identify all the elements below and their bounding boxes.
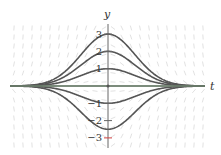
slope-mark (140, 143, 141, 148)
slope-mark (157, 53, 158, 58)
slope-mark (23, 44, 24, 49)
slope-mark (121, 35, 123, 39)
slope-mark (23, 53, 24, 58)
slope-mark (203, 107, 204, 112)
slope-mark (32, 125, 33, 130)
slope-mark (31, 98, 33, 103)
slope-mark (58, 98, 60, 102)
slope-mark (111, 144, 115, 147)
slope-mark (75, 98, 78, 102)
slope-mark (41, 53, 42, 58)
slope-mark (12, 80, 16, 83)
slope-mark (167, 125, 168, 130)
slope-mark (14, 62, 15, 67)
slope-mark (185, 125, 186, 130)
slope-mark (76, 62, 78, 66)
slope-mark (185, 35, 186, 40)
slope-mark (175, 62, 176, 67)
slope-mark (32, 134, 33, 139)
slope-mark (67, 125, 68, 130)
slope-mark (30, 80, 34, 83)
slope-mark (68, 143, 69, 148)
y-tick-label: 1 (96, 63, 102, 74)
slope-mark (68, 26, 69, 31)
slope-mark (23, 125, 24, 130)
slope-mark (77, 143, 78, 148)
slope-mark (30, 89, 34, 93)
slope-mark (130, 134, 132, 139)
slope-mark (185, 44, 186, 49)
slope-mark (49, 62, 50, 67)
slope-mark (175, 71, 177, 76)
slope-mark (167, 53, 168, 58)
slope-mark (139, 134, 140, 139)
slope-mark (59, 125, 60, 130)
slope-mark (130, 44, 132, 49)
slope-mark (166, 107, 167, 112)
slope-mark (158, 26, 159, 31)
slope-mark (85, 53, 87, 57)
slope-mark (76, 44, 77, 49)
slope-mark (32, 35, 33, 40)
slope-mark (120, 116, 123, 120)
slope-mark (166, 62, 167, 67)
slope-mark (121, 134, 123, 138)
slope-mark (102, 135, 106, 137)
slope-mark (13, 71, 15, 76)
slope-mark (130, 143, 131, 148)
slope-mark (176, 134, 177, 139)
slope-mark (194, 125, 195, 130)
slope-mark (121, 125, 124, 129)
slope-mark (50, 53, 51, 58)
slope-mark (58, 53, 59, 58)
slope-mark (59, 134, 60, 139)
slope-mark (148, 125, 149, 130)
slope-mark (203, 44, 204, 49)
slope-mark (184, 71, 186, 76)
slope-mark (41, 125, 42, 130)
slope-mark (111, 54, 116, 56)
slope-mark (39, 89, 43, 92)
slope-mark (50, 143, 51, 148)
slope-mark (120, 72, 125, 74)
slope-mark (158, 134, 159, 139)
slope-mark (102, 45, 107, 47)
slope-mark (158, 125, 159, 130)
slope-mark (185, 116, 186, 121)
t-axis-label: t (210, 80, 215, 93)
slope-mark (102, 36, 106, 38)
slope-mark (85, 35, 87, 40)
slope-mark (76, 134, 77, 139)
slope-mark (176, 35, 177, 40)
slope-mark (185, 107, 186, 112)
slope-mark (23, 107, 24, 112)
slope-mark (111, 73, 116, 74)
slope-mark (111, 108, 116, 109)
slope-mark (193, 71, 195, 76)
slope-mark (157, 62, 159, 67)
slope-mark (148, 107, 150, 112)
slope-mark (31, 62, 32, 67)
slope-mark (14, 44, 15, 49)
slope-mark (49, 98, 51, 103)
y-tick-label: 2 (96, 46, 102, 57)
slope-mark (121, 26, 123, 31)
slope-mark (102, 100, 107, 101)
slope-mark (157, 107, 159, 112)
slope-mark (183, 80, 187, 83)
slope-mark (184, 98, 186, 103)
slope-mark (111, 45, 115, 47)
slope-mark (84, 90, 89, 91)
slope-mark (167, 143, 168, 148)
slope-mark (194, 107, 195, 112)
slope-mark (22, 71, 24, 76)
slope-mark (50, 44, 51, 49)
slope-mark (138, 90, 143, 92)
slope-mark (111, 135, 115, 138)
slope-mark (85, 26, 86, 31)
slope-mark (203, 116, 204, 121)
slope-mark (148, 62, 150, 67)
slope-mark (139, 125, 140, 130)
slope-mark (192, 89, 195, 93)
slope-mark (129, 90, 134, 91)
